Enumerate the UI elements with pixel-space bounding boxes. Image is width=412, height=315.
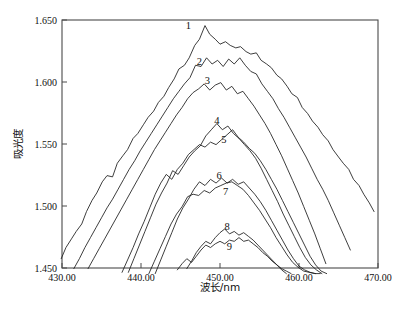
x-tick-label: 460.00 xyxy=(285,272,313,283)
y-axis-title: 吸光度 xyxy=(12,128,24,159)
x-tick-label: 430.00 xyxy=(48,272,76,283)
curve-label-6: 6 xyxy=(217,170,222,181)
curve-label-3: 3 xyxy=(205,75,210,86)
x-tick-label: 440.00 xyxy=(127,272,155,283)
y-tick-label: 1.550 xyxy=(35,139,58,150)
curve-label-4: 4 xyxy=(214,115,220,126)
y-tick-label: 1.450 xyxy=(35,263,58,274)
y-tick-label: 1.650 xyxy=(35,15,58,26)
x-axis-title: 波长/nm xyxy=(200,281,240,293)
x-tick-label: 470.00 xyxy=(364,272,392,283)
chart-page: 430.00440.00450.00460.00470.001.4501.500… xyxy=(0,0,412,315)
curve-label-1: 1 xyxy=(186,20,191,31)
curve-label-7: 7 xyxy=(223,186,228,197)
y-tick-label: 1.600 xyxy=(35,77,58,88)
curve-label-2: 2 xyxy=(197,56,202,67)
y-tick-label: 1.500 xyxy=(35,201,58,212)
spectra-chart: 430.00440.00450.00460.00470.001.4501.500… xyxy=(0,0,412,315)
curve-label-9: 9 xyxy=(227,241,232,252)
curve-label-5: 5 xyxy=(221,134,226,145)
curve-label-8: 8 xyxy=(224,221,229,232)
